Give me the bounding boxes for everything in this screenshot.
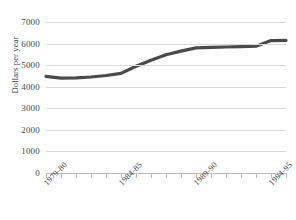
x-axis-tick-mark — [256, 173, 257, 178]
data-line — [46, 40, 286, 78]
grid-line — [46, 22, 286, 23]
x-axis-tick-mark — [106, 173, 107, 178]
grid-line — [46, 108, 286, 109]
line-series-plot — [0, 0, 296, 220]
x-axis-tick-mark — [241, 173, 242, 178]
x-axis-tick-mark — [151, 173, 152, 178]
x-axis-tick-mark — [181, 173, 182, 178]
grid-line — [46, 151, 286, 152]
grid-line — [46, 44, 286, 45]
x-axis-tick-mark — [166, 173, 167, 178]
chart-figure: Dollars per year 70006000500040003000200… — [0, 0, 296, 220]
x-axis-tick-mark — [226, 173, 227, 178]
x-axis-tick-mark — [91, 173, 92, 178]
x-axis-tick-mark — [76, 173, 77, 178]
grid-line — [46, 130, 286, 131]
grid-line — [46, 87, 286, 88]
grid-line — [46, 65, 286, 66]
